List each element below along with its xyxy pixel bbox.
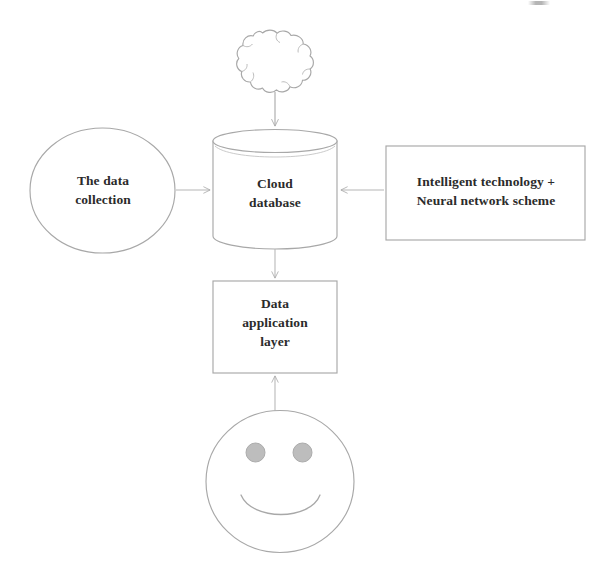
diagram-canvas (0, 0, 607, 562)
cloud-icon (237, 30, 314, 92)
node-data-collection[interactable] (30, 128, 175, 253)
smiley-left-eye (246, 443, 265, 462)
smiley-right-eye (293, 443, 312, 462)
smiley-face-icon[interactable] (206, 411, 354, 553)
node-data-application-layer[interactable] (213, 281, 337, 373)
smiley-face-outline (206, 411, 354, 553)
node-intelligent-technology[interactable] (386, 146, 585, 240)
node-cloud-database[interactable] (213, 130, 337, 250)
